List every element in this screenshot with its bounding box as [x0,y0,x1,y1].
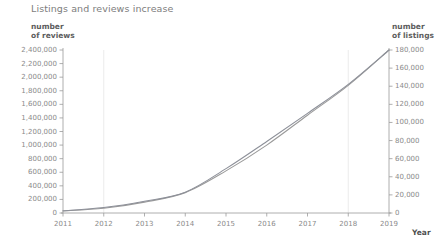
chart-container: Listings and reviews increase number of … [0,0,442,245]
plot-area [0,0,442,245]
